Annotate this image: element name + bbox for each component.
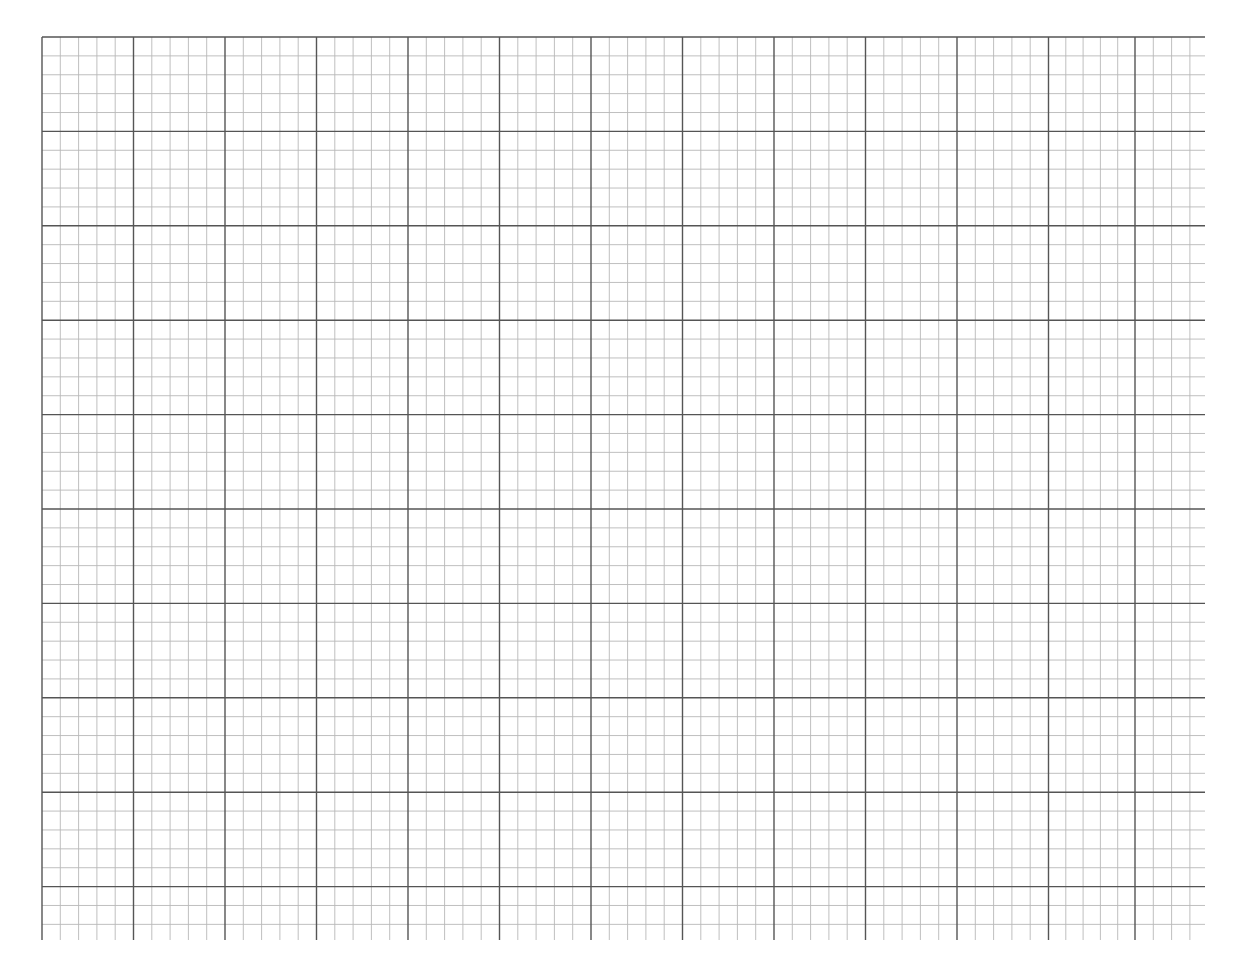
minor-grid-lines [42, 37, 1205, 940]
graph-paper-sheet [0, 0, 1242, 964]
